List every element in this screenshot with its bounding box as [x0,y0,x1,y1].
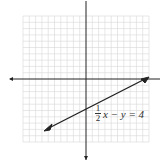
x-axis-left-arrow-icon [9,77,13,81]
equation-label: 1 2 x − y = 4 [95,104,144,123]
coordinate-plane [0,0,161,166]
fraction-denominator: 2 [96,114,101,123]
x-axis [9,77,160,81]
y-axis-bottom-arrow-icon [84,156,88,160]
fraction-one-half: 1 2 [95,104,101,123]
y-axis [84,1,88,160]
line-arrow-upper-right-icon [141,77,149,83]
equation-rest: x − y = 4 [103,108,144,120]
fraction-numerator: 1 [96,104,101,113]
